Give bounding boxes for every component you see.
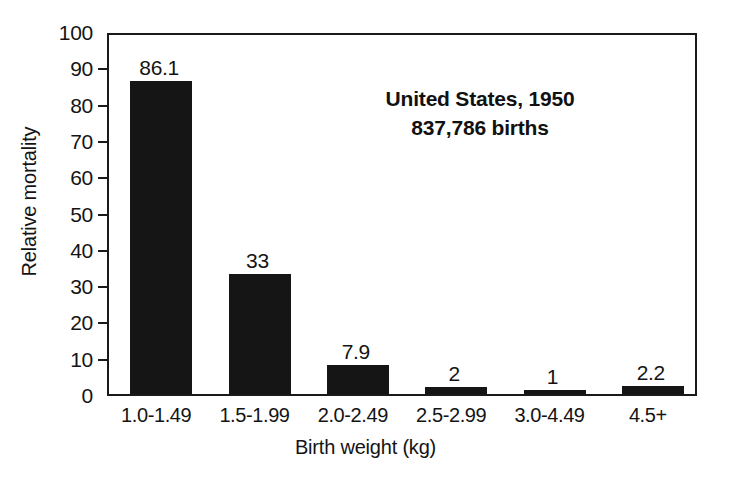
y-axis: 0102030405060708090100 [0,0,107,481]
y-tick-mark [98,214,107,216]
y-tick-mark [98,286,107,288]
bar-value-label: 2 [403,362,505,386]
y-tick-label: 40 [70,237,93,264]
annotation-line-2: 837,786 births [300,113,660,142]
bar [327,365,389,394]
y-tick-mark [98,250,107,252]
y-tick-mark [98,359,107,361]
bar-value-label: 86.1 [108,56,210,80]
y-tick-mark [98,105,107,107]
bar-value-label: 2.2 [600,361,702,385]
bar [425,387,487,394]
y-tick-mark [98,322,107,324]
y-tick-label: 30 [70,273,93,300]
y-tick-label: 100 [59,19,93,46]
y-tick-label: 0 [82,382,93,409]
chart-annotation: United States, 1950 837,786 births [300,84,660,142]
y-tick-label: 10 [70,346,93,373]
y-tick-label: 70 [70,128,93,155]
y-tick-label: 80 [70,92,93,119]
y-tick-mark [98,141,107,143]
y-tick-label: 50 [70,201,93,228]
bar-value-label: 1 [502,365,604,389]
bar [130,81,192,394]
y-tick-label: 60 [70,164,93,191]
bar-value-label: 33 [207,249,309,273]
y-tick-label: 20 [70,309,93,336]
bar [622,386,684,394]
x-tick-label: 4.5+ [589,402,707,428]
x-axis-title: Birth weight (kg) [0,436,731,459]
bar [524,390,586,394]
y-tick-mark [98,177,107,179]
bar [229,274,291,394]
bar-chart-figure: Relative mortality 010203040506070809010… [0,0,731,481]
y-tick-mark [98,68,107,70]
y-tick-label: 90 [70,55,93,82]
annotation-line-1: United States, 1950 [300,84,660,113]
bar-value-label: 7.9 [305,340,407,364]
